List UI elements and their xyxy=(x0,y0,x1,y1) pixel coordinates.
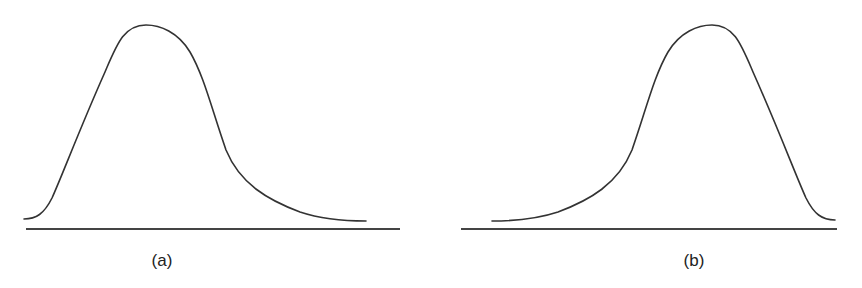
skewed-distributions-figure xyxy=(0,0,862,288)
panel-b xyxy=(461,25,837,229)
panel-b-label: (b) xyxy=(684,251,705,271)
right-skewed-curve xyxy=(24,25,366,221)
panel-a xyxy=(24,25,400,229)
panel-a-label: (a) xyxy=(152,251,173,271)
left-skewed-curve xyxy=(492,25,835,221)
